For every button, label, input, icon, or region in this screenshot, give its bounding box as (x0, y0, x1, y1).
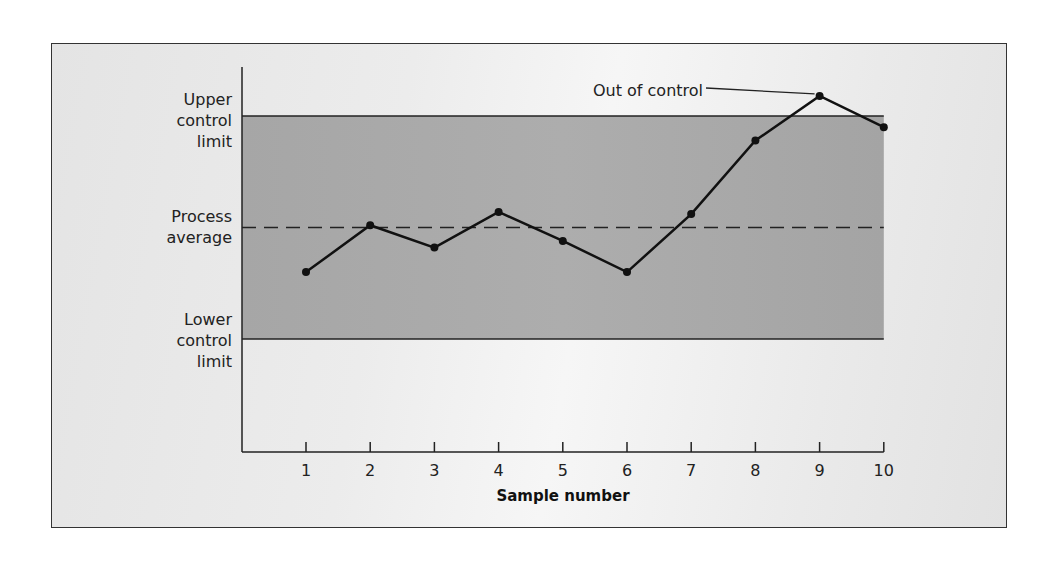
x-tick-label: 8 (750, 461, 760, 480)
data-point (559, 237, 567, 245)
data-point (751, 137, 759, 145)
out-of-control-annotation: Out of control (593, 81, 703, 100)
lcl-label: control (177, 331, 232, 350)
x-tick-label: 9 (815, 461, 825, 480)
data-point (302, 268, 310, 276)
x-tick-label: 5 (558, 461, 568, 480)
x-tick-label: 3 (429, 461, 439, 480)
control-chart: 12345678910 UppercontrollimitProcessaver… (0, 0, 1059, 561)
annotation-leader-line (706, 88, 815, 94)
ucl-label: limit (197, 132, 232, 151)
ucl-label: Upper (184, 90, 233, 109)
x-tick-label: 4 (494, 461, 504, 480)
data-point (430, 244, 438, 252)
lcl-label: limit (197, 352, 232, 371)
data-point (623, 268, 631, 276)
ucl-label: control (177, 111, 232, 130)
x-axis-ticks: 12345678910 (301, 442, 894, 480)
process-average-label: Process (171, 207, 232, 226)
x-tick-label: 6 (622, 461, 632, 480)
process-average-label: average (167, 228, 233, 247)
x-axis-title: Sample number (496, 487, 630, 505)
x-tick-label: 10 (874, 461, 894, 480)
data-point (495, 208, 503, 216)
data-point (880, 123, 888, 131)
data-point (816, 92, 824, 100)
x-tick-label: 7 (686, 461, 696, 480)
data-point (366, 221, 374, 229)
y-reference-labels: UppercontrollimitProcessaverageLowercont… (167, 90, 233, 371)
lcl-label: Lower (184, 310, 232, 329)
data-point (687, 210, 695, 218)
x-tick-label: 1 (301, 461, 311, 480)
x-tick-label: 2 (365, 461, 375, 480)
